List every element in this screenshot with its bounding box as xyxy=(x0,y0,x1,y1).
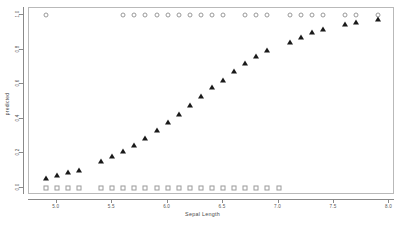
y-tick xyxy=(19,14,23,15)
data-point-observed-class-1 xyxy=(309,12,314,17)
data-point-observed-class-1 xyxy=(343,12,348,17)
data-point-observed-class-1 xyxy=(210,12,215,17)
data-point-observed-class-1 xyxy=(143,12,148,17)
data-point-fitted-probability xyxy=(120,148,126,153)
data-point-observed-class-0 xyxy=(276,186,281,191)
data-point-observed-class-0 xyxy=(143,186,148,191)
data-point-observed-class-0 xyxy=(76,186,81,191)
y-axis-line xyxy=(23,7,24,194)
x-tick xyxy=(56,199,57,203)
y-tick xyxy=(19,49,23,50)
x-tick-label: 5.5 xyxy=(108,204,115,209)
y-tick xyxy=(19,187,23,188)
data-point-observed-class-1 xyxy=(187,12,192,17)
x-tick-label: 7.0 xyxy=(274,204,281,209)
data-point-fitted-probability xyxy=(142,135,148,140)
data-point-fitted-probability xyxy=(353,19,359,24)
x-axis-title: Sepal Length xyxy=(0,211,405,217)
data-point-observed-class-1 xyxy=(243,12,248,17)
data-point-observed-class-1 xyxy=(154,12,159,17)
data-point-fitted-probability xyxy=(231,69,237,74)
data-point-observed-class-0 xyxy=(165,186,170,191)
x-tick xyxy=(111,199,112,203)
data-point-observed-class-0 xyxy=(198,186,203,191)
x-tick-label: 5.0 xyxy=(52,204,59,209)
y-tick-label: 0.2 xyxy=(15,145,20,159)
y-tick-label: 0.8 xyxy=(15,42,20,56)
x-tick-label: 7.5 xyxy=(330,204,337,209)
x-tick xyxy=(222,199,223,203)
data-point-observed-class-0 xyxy=(210,186,215,191)
data-point-observed-class-0 xyxy=(243,186,248,191)
data-point-fitted-probability xyxy=(176,111,182,116)
data-point-observed-class-0 xyxy=(132,186,137,191)
data-point-observed-class-0 xyxy=(254,186,259,191)
y-axis-title: predicted xyxy=(4,76,10,132)
x-tick-label: 6.5 xyxy=(219,204,226,209)
plot-box xyxy=(28,7,394,194)
y-tick-label: 0.0 xyxy=(15,180,20,194)
data-point-fitted-probability xyxy=(76,167,82,172)
data-point-observed-class-0 xyxy=(65,186,70,191)
data-point-fitted-probability xyxy=(209,84,215,89)
data-point-observed-class-1 xyxy=(320,12,325,17)
data-point-fitted-probability xyxy=(54,173,60,178)
y-tick-label: 0.6 xyxy=(15,76,20,90)
y-tick xyxy=(19,83,23,84)
data-point-observed-class-0 xyxy=(54,186,59,191)
data-point-fitted-probability xyxy=(309,30,315,35)
data-point-fitted-probability xyxy=(342,21,348,26)
data-point-observed-class-1 xyxy=(298,12,303,17)
x-tick xyxy=(388,199,389,203)
data-point-observed-class-0 xyxy=(154,186,159,191)
x-tick-label: 8.0 xyxy=(385,204,392,209)
x-tick xyxy=(167,199,168,203)
data-point-fitted-probability xyxy=(65,170,71,175)
data-point-observed-class-1 xyxy=(165,12,170,17)
data-point-observed-class-0 xyxy=(121,186,126,191)
data-point-fitted-probability xyxy=(287,39,293,44)
data-point-fitted-probability xyxy=(298,34,304,39)
x-tick xyxy=(333,199,334,203)
plot-area xyxy=(29,8,393,193)
data-point-fitted-probability xyxy=(264,47,270,52)
data-point-observed-class-1 xyxy=(198,12,203,17)
data-point-observed-class-1 xyxy=(132,12,137,17)
data-point-observed-class-1 xyxy=(254,12,259,17)
y-tick xyxy=(19,152,23,153)
data-point-fitted-probability xyxy=(320,26,326,31)
data-point-fitted-probability xyxy=(220,77,226,82)
data-point-observed-class-0 xyxy=(232,186,237,191)
data-point-fitted-probability xyxy=(109,154,115,159)
data-point-observed-class-1 xyxy=(287,12,292,17)
data-point-fitted-probability xyxy=(43,175,49,180)
data-point-observed-class-1 xyxy=(221,12,226,17)
data-point-fitted-probability xyxy=(165,120,171,125)
data-point-observed-class-0 xyxy=(99,186,104,191)
data-point-observed-class-0 xyxy=(187,186,192,191)
data-point-observed-class-0 xyxy=(221,186,226,191)
data-point-observed-class-0 xyxy=(176,186,181,191)
y-tick-label: 1.0 xyxy=(15,7,20,21)
data-point-fitted-probability xyxy=(98,159,104,164)
x-axis-line xyxy=(28,199,394,200)
data-point-observed-class-0 xyxy=(110,186,115,191)
data-point-fitted-probability xyxy=(375,17,381,22)
data-point-observed-class-1 xyxy=(176,12,181,17)
data-point-observed-class-0 xyxy=(43,186,48,191)
x-tick-label: 6.0 xyxy=(163,204,170,209)
data-point-fitted-probability xyxy=(131,142,137,147)
data-point-observed-class-1 xyxy=(265,12,270,17)
logistic-regression-scatter-plot: 5.05.56.06.57.07.58.0 Sepal Length 0.00.… xyxy=(0,0,405,226)
data-point-fitted-probability xyxy=(198,94,204,99)
data-point-observed-class-1 xyxy=(43,12,48,17)
x-tick xyxy=(278,199,279,203)
data-point-fitted-probability xyxy=(253,53,259,58)
y-tick xyxy=(19,118,23,119)
data-point-fitted-probability xyxy=(154,128,160,133)
data-point-fitted-probability xyxy=(242,61,248,66)
data-point-fitted-probability xyxy=(187,102,193,107)
data-point-observed-class-1 xyxy=(354,12,359,17)
data-point-observed-class-0 xyxy=(265,186,270,191)
data-point-observed-class-1 xyxy=(121,12,126,17)
